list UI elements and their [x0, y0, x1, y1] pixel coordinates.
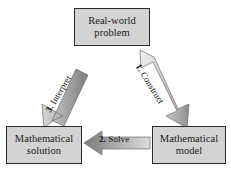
node-real-world-problem-line1: Real-world [88, 15, 136, 27]
node-mathematical-model-line2: model [160, 145, 218, 157]
node-mathematical-model-line1: Mathematical [160, 133, 218, 145]
node-mathematical-solution: Mathematical solution [6, 126, 82, 164]
modelling-cycle-diagram: Real-world problem Mathematical solution… [0, 0, 231, 172]
node-real-world-problem-line2: problem [88, 27, 136, 39]
node-mathematical-model: Mathematical model [152, 126, 226, 164]
node-real-world-problem: Real-world problem [74, 8, 150, 46]
node-mathematical-solution-line2: solution [15, 145, 73, 157]
arrow-label-solve-number: 2. [99, 134, 106, 144]
node-mathematical-solution-line1: Mathematical [15, 133, 73, 145]
arrow-label-solve-text: Solve [108, 134, 129, 144]
arrow-label-solve: 2. Solve [99, 134, 129, 144]
